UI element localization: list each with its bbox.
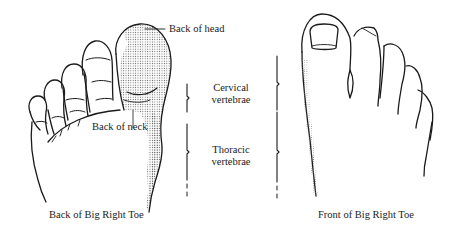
diagram-drawing (0, 0, 450, 236)
spine-brackets (187, 56, 279, 198)
reflexology-diagram: Back of head Back of neck Cervical verte… (0, 0, 450, 236)
front-of-toe-drawing (302, 14, 433, 196)
thoracic-label-line1: Thoracic (196, 144, 266, 156)
back-toe-caption: Back of Big Right Toe (49, 209, 144, 221)
front-toe-caption: Front of Big Right Toe (318, 209, 414, 221)
front-toe-edge-shading (302, 60, 318, 196)
thoracic-label-line2: vertebrae (196, 156, 266, 168)
cervical-label-line2: vertebrae (196, 94, 266, 106)
cervical-label-line1: Cervical (196, 82, 266, 94)
big-toe-shaded (120, 24, 172, 210)
back-of-neck-label: Back of neck (92, 121, 147, 133)
back-of-head-label: Back of head (169, 23, 224, 35)
